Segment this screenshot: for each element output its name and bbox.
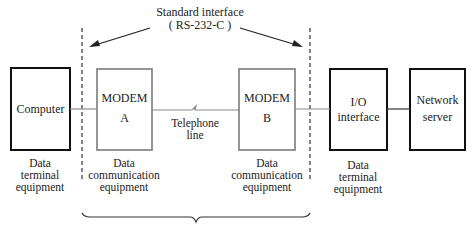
- telephone-line: [152, 106, 239, 110]
- bottom-brace: [82, 213, 310, 222]
- modem-a-caption-2: communication: [84, 169, 164, 181]
- network-server-label: Network: [410, 94, 465, 107]
- computer-caption-1: Data: [0, 157, 80, 169]
- computer-caption-3: equipment: [0, 181, 80, 193]
- io-caption-3: equipment: [318, 183, 398, 195]
- computer-label: Computer: [11, 103, 70, 116]
- modem-b-caption-1: Data: [227, 157, 307, 169]
- modem-b-label: MODEM: [239, 92, 295, 105]
- modem-b-sublabel: B: [239, 112, 295, 125]
- modem-a-caption-3: equipment: [84, 181, 164, 193]
- modem-b-caption-3: equipment: [227, 181, 307, 193]
- telephone-line-label: Telephone: [160, 117, 230, 129]
- modem-a-caption-1: Data: [84, 157, 164, 169]
- io-caption-1: Data: [318, 159, 398, 171]
- telephone-line-sublabel: line: [160, 129, 230, 141]
- modem-a-sublabel: A: [97, 112, 152, 125]
- io-interface-label: I/O: [330, 96, 387, 109]
- title-line-1: Standard interface: [140, 6, 260, 18]
- io-interface-sublabel: interface: [330, 111, 387, 124]
- modem-a-label: MODEM: [97, 92, 152, 105]
- computer-caption-2: terminal: [0, 169, 80, 181]
- modem-b-caption-2: communication: [227, 169, 307, 181]
- modem-b-box: [239, 69, 295, 150]
- network-server-sublabel: server: [410, 111, 465, 124]
- io-caption-2: terminal: [318, 171, 398, 183]
- arrowhead-left-icon: [89, 40, 100, 47]
- modem-a-box: [97, 69, 152, 150]
- title-line-2: ( RS-232-C ): [140, 19, 260, 31]
- arrowhead-right-icon: [292, 40, 303, 47]
